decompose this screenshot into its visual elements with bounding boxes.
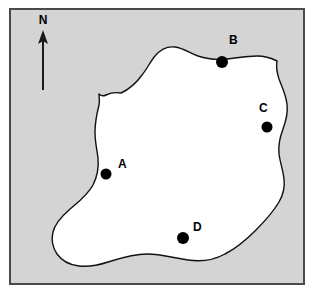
site-dot-b[interactable] [216,56,228,68]
site-dot-d[interactable] [177,232,189,244]
compass-rose: N [38,13,48,90]
island-map-figure: N A B C D [0,0,319,300]
map-frame: N A B C D [9,8,305,285]
site-label-b: B [229,33,238,47]
map-canvas: N A B C D [11,10,303,283]
site-dot-c[interactable] [262,122,273,133]
site-label-c: C [259,101,268,115]
site-label-a: A [118,157,127,171]
island-outline [52,47,287,266]
site-label-d: D [193,220,202,234]
compass-north-label: N [39,13,48,27]
site-dot-a[interactable] [101,169,112,180]
